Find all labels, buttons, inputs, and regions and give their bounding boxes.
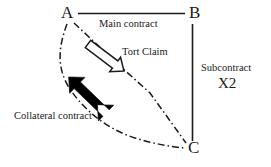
node-label-a: A	[61, 4, 73, 21]
node-label-c: C	[188, 139, 199, 156]
edge-label-subcontract-x2: X2	[218, 75, 236, 91]
edge-label-main-contract: Main contract	[99, 18, 158, 30]
edge-label-collateral-contract: Collateral contract	[14, 110, 92, 122]
edge-label-tort-claim: Tort Claim	[122, 46, 168, 58]
contract-relationship-diagram: A B C Main contract Subcontract X2 Tort …	[0, 0, 271, 167]
edge-label-subcontract: Subcontract	[201, 62, 251, 74]
node-label-b: B	[189, 4, 200, 21]
